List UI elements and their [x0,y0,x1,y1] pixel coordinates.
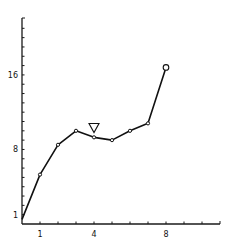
x-tick-label: 4 [91,230,96,239]
data-point [92,136,95,139]
y-tick-label: 16 [8,71,18,80]
x-tick-labels: 148 [37,230,168,239]
line-chart: 148 1816 [0,0,232,247]
axes [22,18,220,224]
x-tick-label: 8 [163,230,168,239]
annotation-layer [89,124,99,133]
data-point [74,129,77,132]
y-tick-label: 1 [13,211,18,220]
down-triangle-marker [89,124,99,133]
data-point [146,122,149,125]
series-line [22,67,166,219]
data-point [38,173,41,176]
y-tick-labels: 1816 [8,71,18,220]
x-tick-label: 1 [37,230,42,239]
end-point-marker [163,65,169,71]
y-ticks [22,28,25,214]
y-tick-label: 8 [13,145,18,154]
series-layer [22,65,169,220]
data-point [128,129,131,132]
data-point [56,143,59,146]
data-point [110,139,113,142]
